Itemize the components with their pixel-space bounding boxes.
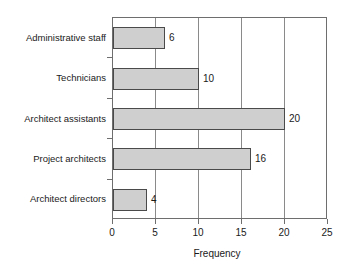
bar-architect-assistants[interactable] [113,108,285,130]
y-axis-minor-tick [107,57,112,58]
y-axis-minor-tick [107,179,112,180]
bar-value-administrative-staff: 6 [169,32,175,43]
x-axis-tick-10 [198,219,199,224]
x-axis-tick-label-15: 15 [235,227,246,238]
bar-value-technicians: 10 [203,72,214,83]
x-axis-tick-20 [284,219,285,224]
x-axis-tick-0 [112,219,113,224]
bar-architect-directors[interactable] [113,189,147,211]
bar-chart-figure: 6 10 20 16 4 Administrative staff Techni… [0,0,344,273]
x-axis-tick-label-10: 10 [192,227,203,238]
x-axis-tick-15 [241,219,242,224]
x-axis-title-text: Frequency [193,248,240,259]
category-label-architect-directors: Architect directors [30,193,106,204]
x-axis-tick-label-25: 25 [321,227,332,238]
bar-technicians[interactable] [113,68,199,90]
bar-project-architects[interactable] [113,148,251,170]
y-axis-minor-tick [107,98,112,99]
x-axis-tick-5 [155,219,156,224]
x-axis-tick-25 [327,219,328,224]
bar-administrative-staff[interactable] [113,27,165,49]
x-axis-tick-label-0: 0 [109,227,115,238]
bar-value-architect-assistants: 20 [289,113,300,124]
category-label-technicians: Technicians [56,72,106,83]
y-axis-minor-tick [107,138,112,139]
bar-value-project-architects: 16 [255,153,266,164]
category-label-administrative-staff: Administrative staff [26,32,106,43]
x-axis-title: Frequency [0,248,344,260]
x-axis-tick-label-5: 5 [152,227,158,238]
bar-value-architect-directors: 4 [151,193,157,204]
category-label-project-architects: Project architects [33,153,106,164]
category-label-architect-assistants: Architect assistants [24,113,106,124]
x-axis-tick-label-20: 20 [278,227,289,238]
